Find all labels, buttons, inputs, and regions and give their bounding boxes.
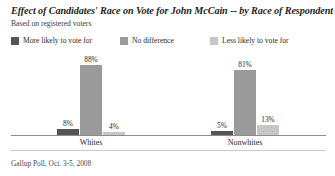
x-tick-label-whites: Whites <box>57 138 125 148</box>
chart-figure: Effect of Candidates' Race on Vote for J… <box>0 0 335 176</box>
bar-rect <box>211 131 233 135</box>
legend-label-no-difference: No difference <box>132 36 174 45</box>
plot-area: 8% 88% 4% Whites 5% <box>0 50 335 136</box>
legend-label-less-likely: Less likely to vote for <box>222 36 289 45</box>
bar-value-label: 5% <box>217 121 227 130</box>
legend-item-more-likely[interactable]: More likely to vote for <box>11 35 92 46</box>
bar-value-label: 88% <box>84 55 98 64</box>
footer-divider <box>11 150 325 151</box>
chart-title: Effect of Candidates' Race on Vote for J… <box>11 5 329 17</box>
source-note: Gallup Poll, Oct. 3-5, 2008 <box>11 159 91 168</box>
bar-whites-less-likely[interactable]: 4% <box>103 50 125 135</box>
chart-legend: More likely to vote for No difference Le… <box>11 35 329 46</box>
legend-swatch-more-likely <box>11 37 19 45</box>
bar-nonwhites-no-difference[interactable]: 81% <box>234 50 256 135</box>
bar-group-whites-bars: 8% 88% 4% <box>57 50 125 135</box>
bar-nonwhites-less-likely[interactable]: 13% <box>257 50 279 135</box>
chart-subtitle: Based on registered voters <box>11 19 91 28</box>
bar-rect <box>234 70 256 135</box>
bar-nonwhites-more-likely[interactable]: 5% <box>211 50 233 135</box>
bar-whites-more-likely[interactable]: 8% <box>57 50 79 135</box>
bar-value-label: 8% <box>63 119 73 128</box>
bar-group-nonwhites-bars: 5% 81% 13% <box>211 50 279 135</box>
legend-item-no-difference[interactable]: No difference <box>120 35 174 46</box>
x-axis-line <box>11 135 326 136</box>
legend-item-less-likely[interactable]: Less likely to vote for <box>210 35 289 46</box>
x-tick-label-nonwhites: Nonwhites <box>211 138 279 148</box>
bar-group-nonwhites: 5% 81% 13% Nonwhites <box>211 50 279 135</box>
bar-rect <box>257 125 279 135</box>
bar-rect <box>103 132 125 135</box>
bar-value-label: 4% <box>109 122 119 131</box>
bar-whites-no-difference[interactable]: 88% <box>80 50 102 135</box>
bar-value-label: 81% <box>238 60 252 69</box>
bar-group-whites: 8% 88% 4% Whites <box>57 50 125 135</box>
bar-rect <box>80 65 102 135</box>
bar-value-label: 13% <box>261 115 275 124</box>
legend-swatch-less-likely <box>210 37 218 45</box>
legend-label-more-likely: More likely to vote for <box>23 36 92 45</box>
legend-swatch-no-difference <box>120 37 128 45</box>
bar-rect <box>57 129 79 135</box>
